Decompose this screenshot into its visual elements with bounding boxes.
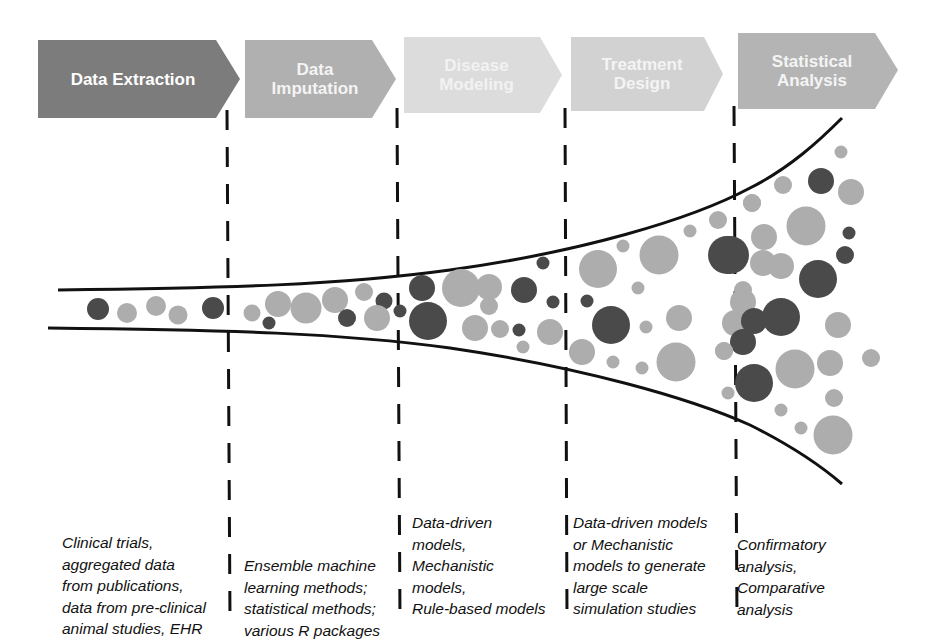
divider-3 xyxy=(565,108,567,620)
pipeline-diagram: Data Extraction Data Imputation Disease … xyxy=(0,0,929,642)
data-circle xyxy=(581,295,594,308)
data-circle xyxy=(836,246,854,264)
data-circle xyxy=(657,343,696,382)
data-circle xyxy=(617,240,630,253)
data-circle xyxy=(244,305,261,322)
data-circle xyxy=(592,306,630,344)
data-circle xyxy=(825,312,851,338)
data-circle xyxy=(442,269,480,307)
data-circle xyxy=(409,302,447,340)
data-circle xyxy=(762,298,800,336)
data-circle xyxy=(511,277,537,303)
divider-1 xyxy=(227,110,230,620)
data-circle xyxy=(838,179,864,205)
data-circle xyxy=(795,422,808,435)
data-circle xyxy=(708,236,746,274)
data-circle xyxy=(684,225,697,238)
data-circle xyxy=(462,315,488,341)
data-circle xyxy=(537,257,550,270)
data-circle xyxy=(735,364,773,402)
data-circle xyxy=(775,404,788,417)
data-circle xyxy=(364,305,390,331)
data-circle xyxy=(547,296,560,309)
data-circle xyxy=(862,349,880,367)
data-circle xyxy=(640,236,679,275)
data-circle xyxy=(825,389,843,407)
data-circle xyxy=(579,250,617,288)
data-circle xyxy=(640,321,653,334)
data-circle xyxy=(263,317,276,330)
data-circle xyxy=(776,350,815,389)
data-circle xyxy=(774,176,792,194)
data-circles xyxy=(87,146,880,455)
data-circle xyxy=(87,298,109,320)
data-circle xyxy=(632,282,645,295)
data-circle xyxy=(843,227,856,240)
data-circle xyxy=(480,297,498,315)
stage-title-statistical-analysis: Statistical Analysis xyxy=(738,33,886,109)
data-circle xyxy=(117,303,137,323)
data-circle xyxy=(743,194,761,212)
data-circle xyxy=(787,207,826,246)
data-circle xyxy=(808,168,834,194)
stage-description-data-imputation: Ensemble machine learning methods; stati… xyxy=(244,555,380,641)
stage-description-statistical-analysis: Confirmatory analysis, Comparative analy… xyxy=(737,534,826,620)
stage-description-data-extraction: Clinical trials, aggregated data from pu… xyxy=(62,532,206,640)
data-circle xyxy=(409,275,435,301)
data-circle xyxy=(169,306,188,325)
data-circle xyxy=(338,309,356,327)
data-circle xyxy=(799,260,837,298)
data-circle xyxy=(265,291,291,317)
data-circle xyxy=(355,283,373,301)
data-circle xyxy=(636,362,649,375)
data-circle xyxy=(715,342,733,360)
data-circle xyxy=(491,320,509,338)
stage-title-data-extraction: Data Extraction xyxy=(38,40,228,118)
stage-title-data-imputation: Data Imputation xyxy=(245,40,385,118)
stage-description-disease-modeling: Data-driven models, Mechanistic models, … xyxy=(412,512,546,620)
stage-title-treatment-design: Treatment Design xyxy=(571,37,713,111)
data-circle xyxy=(751,224,777,250)
data-circle xyxy=(722,387,735,400)
data-circle xyxy=(666,305,692,331)
stage-description-treatment-design: Data-driven models or Mechanistic models… xyxy=(573,512,707,620)
data-circle xyxy=(817,350,843,376)
data-circle xyxy=(513,324,526,337)
stage-title-disease-modeling: Disease Modeling xyxy=(404,37,549,113)
data-circle xyxy=(146,296,166,316)
data-circle xyxy=(322,287,348,313)
data-circle xyxy=(394,305,407,318)
data-circle xyxy=(709,211,727,229)
data-circle xyxy=(607,356,620,369)
data-circle xyxy=(476,274,502,300)
data-circle xyxy=(291,293,322,324)
data-circle xyxy=(537,319,563,345)
divider-2 xyxy=(397,108,400,620)
data-circle xyxy=(768,253,794,279)
data-circle xyxy=(814,416,853,455)
data-circle xyxy=(835,146,848,159)
data-circle xyxy=(202,297,224,319)
data-circle xyxy=(517,341,530,354)
data-circle xyxy=(569,339,595,365)
